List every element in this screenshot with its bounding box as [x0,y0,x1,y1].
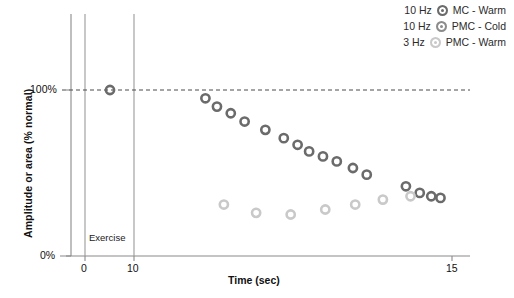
legend-marker-pmc-warm [430,37,441,48]
data-point [252,209,260,217]
chart-figure: 10 Hz MC - Warm 10 Hz PMC - Cold 3 Hz PM… [0,0,514,298]
data-point [294,141,302,149]
x-tick-label-10: 10 [127,262,139,274]
legend-label-mc-warm: MC - Warm [453,4,506,17]
data-point [319,152,327,160]
data-point [280,134,288,142]
legend-item-pmc-cold: 10 Hz PMC - Cold [397,20,506,33]
data-point [436,194,444,202]
data-point [220,200,228,208]
x-tick-label-0: 0 [81,262,87,274]
data-point [241,117,249,125]
data-point [402,182,410,190]
data-point [363,171,371,179]
data-point [213,103,221,111]
legend-marker-pmc-cold [436,21,447,32]
data-point [261,126,269,134]
data-point [379,195,387,203]
legend-marker-mc-warm [437,5,448,16]
x-axis-title: Time (sec) [228,274,280,286]
data-point [227,109,235,117]
data-point [201,94,209,102]
data-point [406,192,414,200]
legend-frequency-pmc-cold: 10 Hz [397,20,431,33]
y-axis-title: Amplitude or area (% normal) [22,89,34,238]
data-point [416,189,424,197]
data-point [106,86,114,94]
data-point [349,164,357,172]
y-tick-label-100: 100% [30,83,57,95]
data-point [287,210,295,218]
data-point [351,200,359,208]
exercise-boundary-lines [85,14,134,256]
legend-frequency-mc-warm: 10 Hz [398,4,432,17]
data-point-group [106,86,445,219]
legend-label-pmc-warm: PMC - Warm [446,36,506,49]
x-tick-label-15: 15 [446,262,458,274]
data-point [305,147,313,155]
data-point [427,192,435,200]
legend-item-pmc-warm: 3 Hz PMC - Warm [391,36,506,49]
data-point [321,205,329,213]
legend-item-mc-warm: 10 Hz MC - Warm [398,4,506,17]
chart-legend: 10 Hz MC - Warm 10 Hz PMC - Cold 3 Hz PM… [391,4,506,49]
exercise-annotation-label: Exercise [89,232,125,243]
y-tick-label-0: 0% [40,249,55,261]
y-axis-ticks [66,90,71,256]
x-axis-ticks [85,256,452,261]
legend-label-pmc-cold: PMC - Cold [452,20,506,33]
legend-frequency-pmc-warm: 3 Hz [391,36,425,49]
data-point [333,157,341,165]
